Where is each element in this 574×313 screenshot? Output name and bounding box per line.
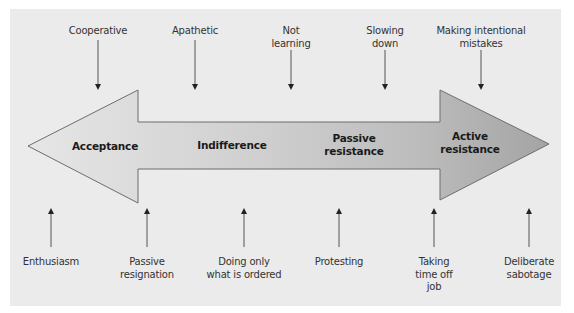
top-label-making-intentional-mistakes: Making intentional mistakes bbox=[436, 25, 525, 50]
stage-passive-resistance: Passive resistance bbox=[324, 132, 383, 158]
top-pointer-heads bbox=[95, 84, 484, 90]
top-label-apathetic: Apathetic bbox=[172, 25, 218, 38]
bottom-pointer-lines bbox=[51, 212, 529, 247]
bottom-label-taking-time-off-job: Taking time off job bbox=[415, 256, 452, 294]
top-label-not-learning: Not learning bbox=[271, 25, 310, 50]
bottom-label-protesting: Protesting bbox=[315, 256, 364, 269]
stage-acceptance: Acceptance bbox=[72, 140, 138, 153]
top-label-cooperative: Cooperative bbox=[69, 25, 128, 38]
stage-indifference: Indifference bbox=[197, 139, 266, 152]
top-label-slowing-down: Slowing down bbox=[366, 25, 404, 50]
bottom-label-enthusiasm: Enthusiasm bbox=[23, 256, 79, 269]
bottom-label-passive-resignation: Passive resignation bbox=[120, 256, 174, 281]
bottom-label-deliberate-sabotage: Deliberate sabotage bbox=[504, 256, 554, 281]
stage-active-resistance: Active resistance bbox=[440, 130, 499, 156]
bottom-label-doing-only-what-is-ordered: Doing only what is ordered bbox=[207, 256, 282, 281]
bottom-pointer-heads bbox=[48, 208, 532, 214]
